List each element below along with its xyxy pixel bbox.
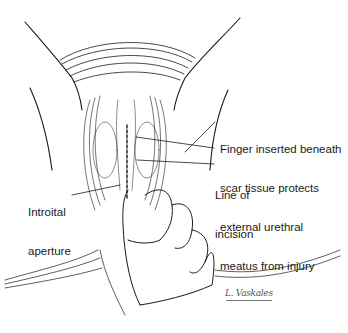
label-line: Finger inserted beneath [220,143,341,156]
label-line: aperture [28,245,71,258]
label-line: meatus from injury [220,260,341,273]
pubic-arch [60,42,195,82]
leader-incision [137,160,214,164]
leader-finger-2 [136,137,214,148]
label-line: incision [215,228,253,241]
hand [123,190,214,305]
signature-underline [226,300,272,301]
label-line-of-incision: Line of incision [215,163,253,254]
artist-signature: L. Vaskales [225,288,273,298]
label-introital-aperture: Introital aperture [28,180,71,271]
label-line: Introital [28,206,71,219]
label-line: Line of [215,189,253,202]
labia [84,96,167,210]
